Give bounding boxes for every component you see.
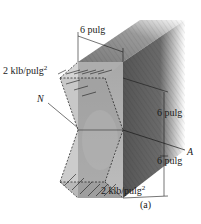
- top-width-text: 6 pulg: [80, 24, 105, 35]
- bottom-stress-exponent: 2: [142, 184, 146, 192]
- upper-depth-label: 6 pulg: [157, 108, 182, 118]
- top-width-label: 6 pulg: [80, 25, 105, 35]
- bottom-stress-value: 2 klb/pulg: [101, 185, 142, 196]
- beam-stress-diagram: 6 pulg 2 klb/pulg2 N A 6 pulg 6 pulg 2 k…: [0, 0, 201, 224]
- figure-caption: (a): [140, 200, 151, 210]
- top-stress-leader: [58, 70, 66, 74]
- top-stress-value: 2 klb/pulg: [3, 65, 44, 76]
- upper-depth-text: 6 pulg: [157, 107, 182, 118]
- lower-depth-label: 6 pulg: [157, 156, 182, 166]
- neutral-axis-n-text: N: [37, 93, 44, 104]
- top-stress-exponent: 2: [44, 64, 48, 72]
- neutral-axis-n-label: N: [37, 94, 44, 104]
- neutral-axis-a-label: A: [187, 147, 193, 157]
- lower-depth-text: 6 pulg: [157, 155, 182, 166]
- neutral-axis-a-text: A: [187, 146, 193, 157]
- figure-caption-text: (a): [140, 199, 151, 210]
- bottom-stress-label: 2 klb/pulg2: [101, 186, 145, 196]
- top-stress-label: 2 klb/pulg2: [3, 66, 47, 76]
